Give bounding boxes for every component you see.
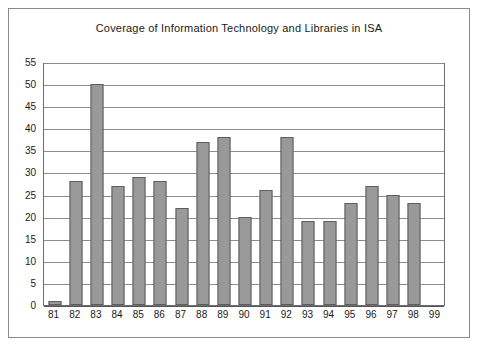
x-tick-label-97: 97 [387,309,398,320]
bar-slot-81 [44,64,65,305]
y-tick-label-55: 55 [25,58,36,68]
x-axis-tick-labels: 81828384858687888990919293949596979899 [43,309,445,325]
y-tick-label-20: 20 [25,213,36,223]
x-tick-label-86: 86 [154,309,165,320]
bar-91[interactable] [260,190,273,305]
bar-slot-92 [277,64,298,305]
bar-slot-83 [86,64,107,305]
bar-slot-98 [404,64,425,305]
y-tick-label-30: 30 [25,168,36,178]
y-tick-label-45: 45 [25,102,36,112]
bar-96[interactable] [365,186,378,305]
x-tick-label-84: 84 [111,309,122,320]
x-tick-label-85: 85 [133,309,144,320]
bar-90[interactable] [238,217,251,305]
x-tick-label-88: 88 [196,309,207,320]
y-tick-label-10: 10 [25,257,36,267]
x-tick-label-91: 91 [260,309,271,320]
bar-slot-85 [129,64,150,305]
bar-87[interactable] [175,208,188,305]
bar-94[interactable] [323,221,336,305]
bar-slot-96 [361,64,382,305]
y-tick-label-0: 0 [30,301,36,311]
bar-89[interactable] [217,137,230,305]
bar-slot-87 [171,64,192,305]
bar-slot-84 [107,64,128,305]
bar-98[interactable] [408,203,421,305]
bar-slot-86 [150,64,171,305]
bar-84[interactable] [112,186,125,305]
bar-slot-95 [340,64,361,305]
y-tick-label-15: 15 [25,235,36,245]
chart-title: Coverage of Information Technology and L… [9,22,469,34]
y-tick-label-25: 25 [25,191,36,201]
bar-slot-90 [234,64,255,305]
bar-93[interactable] [302,221,315,305]
x-tick-label-98: 98 [408,309,419,320]
y-tick-label-50: 50 [25,80,36,90]
chart-frame: Coverage of Information Technology and L… [8,8,470,338]
bar-97[interactable] [387,195,400,305]
x-tick-label-87: 87 [175,309,186,320]
bar-81[interactable] [48,301,61,305]
x-tick-label-81: 81 [48,309,59,320]
x-tick-label-99: 99 [429,309,440,320]
gridline-0 [44,306,444,307]
bar-86[interactable] [154,181,167,305]
x-tick-label-82: 82 [69,309,80,320]
bar-slot-97 [383,64,404,305]
bar-slot-94 [319,64,340,305]
x-tick-label-92: 92 [281,309,292,320]
bars-layer [44,64,444,305]
y-tick-label-40: 40 [25,124,36,134]
x-tick-label-93: 93 [302,309,313,320]
bar-92[interactable] [281,137,294,305]
bar-slot-99 [425,64,446,305]
bar-83[interactable] [90,84,103,305]
bar-slot-93 [298,64,319,305]
y-tick-label-35: 35 [25,146,36,156]
x-tick-label-95: 95 [344,309,355,320]
chart-screenshot: Coverage of Information Technology and L… [0,0,481,348]
bar-slot-89 [213,64,234,305]
bar-88[interactable] [196,142,209,305]
bar-82[interactable] [69,181,82,305]
x-tick-label-83: 83 [90,309,101,320]
plot-area [43,63,445,306]
x-tick-label-94: 94 [323,309,334,320]
x-tick-label-89: 89 [217,309,228,320]
bar-slot-88 [192,64,213,305]
y-axis-tick-labels: 0510152025303540455055 [9,63,41,306]
x-tick-label-96: 96 [365,309,376,320]
bar-85[interactable] [133,177,146,305]
x-tick-label-90: 90 [238,309,249,320]
bar-95[interactable] [344,203,357,305]
y-tick-label-5: 5 [30,279,36,289]
bar-slot-91 [256,64,277,305]
bar-slot-82 [65,64,86,305]
